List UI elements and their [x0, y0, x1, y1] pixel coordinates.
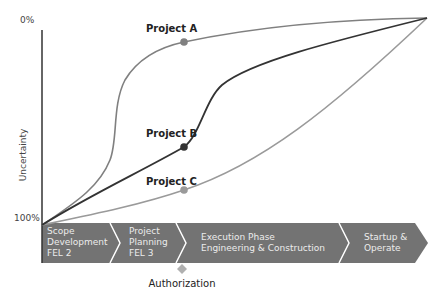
project-a-curve: [42, 18, 427, 225]
authorization-label: Authorization: [149, 278, 216, 289]
phase-planning-line1: Project: [129, 226, 160, 236]
project-a-label: Project A: [146, 23, 198, 34]
phase-execution-line2: Engineering & Construction: [201, 243, 325, 253]
project-a-marker: [180, 38, 188, 46]
project-c-marker: [180, 186, 188, 194]
y-tick-100-percent: 100%: [14, 213, 40, 223]
phase-scope-line3: FEL 2: [47, 248, 71, 258]
phase-startup-line1: Startup &: [364, 232, 407, 242]
phase-scope-line1: Scope: [47, 226, 75, 236]
phase-bar: Scope Development FEL 2 Project Planning…: [42, 223, 428, 263]
project-b-marker: [180, 143, 188, 151]
phase-execution-line1: Execution Phase: [201, 232, 275, 242]
project-b-curve: [42, 18, 427, 225]
phase-scope-line2: Development: [47, 237, 108, 247]
y-tick-0-percent: 0%: [20, 15, 35, 25]
phase-planning-line3: FEL 3: [129, 248, 153, 258]
project-c-curve: [42, 18, 427, 225]
project-b-label: Project B: [146, 128, 197, 139]
uncertainty-diagram: Scope Development FEL 2 Project Planning…: [0, 0, 442, 295]
project-c-label: Project C: [146, 176, 197, 187]
phase-startup-line2: Operate: [364, 243, 401, 253]
phase-planning-line2: Planning: [129, 237, 168, 247]
y-axis-title: Uncertainty: [18, 128, 28, 181]
authorization-diamond-icon: [177, 264, 187, 274]
